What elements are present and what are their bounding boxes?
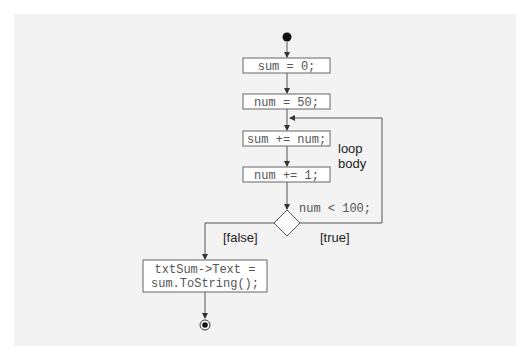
condition-label: num < 100;: [299, 202, 371, 216]
activity-diagram: sum = 0; num = 50; sum += num; num += 1;…: [0, 0, 532, 359]
svg-text:sum = 0;: sum = 0;: [258, 60, 316, 74]
svg-text:txtSum->Text =: txtSum->Text =: [155, 263, 256, 277]
true-guard-label: [true]: [320, 230, 350, 245]
svg-text:num = 50;: num = 50;: [254, 96, 319, 110]
action-output: txtSum->Text = sum.ToString();: [143, 260, 267, 292]
loop-body-label: loop: [338, 141, 363, 156]
action-sum-add: sum += num;: [243, 131, 330, 147]
action-num-increment: num += 1;: [243, 167, 330, 183]
loop-body-label-2: body: [338, 156, 367, 171]
false-guard-label: [false]: [223, 230, 258, 245]
svg-text:sum += num;: sum += num;: [247, 133, 326, 147]
action-num-init: num = 50;: [243, 94, 330, 110]
action-sum-init: sum = 0;: [243, 58, 330, 74]
svg-text:sum.ToString();: sum.ToString();: [151, 277, 259, 291]
final-node: [200, 320, 210, 330]
initial-node: [283, 33, 292, 42]
decision-node: [274, 210, 300, 236]
svg-text:num += 1;: num += 1;: [254, 169, 319, 183]
